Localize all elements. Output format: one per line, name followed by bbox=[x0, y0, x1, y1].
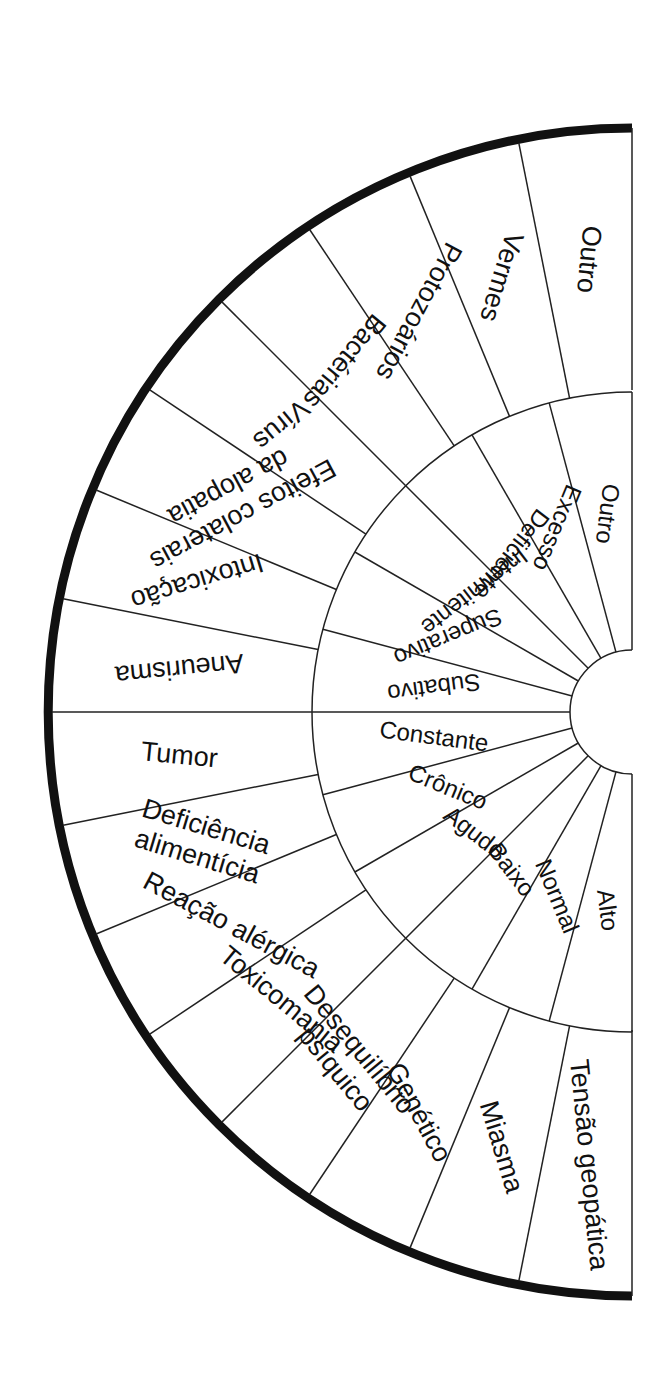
middle-segment-label: Crônico bbox=[405, 758, 492, 815]
outer-segment-label: Protozoários bbox=[370, 238, 468, 386]
middle-segment-label: Alto bbox=[592, 888, 624, 933]
outer-segment-label: Tumor bbox=[140, 736, 220, 773]
svg-text:Intoxicação: Intoxicação bbox=[127, 548, 266, 616]
outer-ring-labels: OutroVermesProtozoáriosBactériasVírusEfe… bbox=[113, 224, 615, 1272]
inner-hub bbox=[570, 650, 632, 774]
svg-text:Subativo: Subativo bbox=[386, 669, 482, 708]
svg-text:Vermes: Vermes bbox=[474, 229, 529, 325]
outer-segment-label: Efeitos colateraisda alopatia bbox=[131, 426, 341, 577]
svg-text:Outro: Outro bbox=[591, 482, 626, 545]
svg-text:Outro: Outro bbox=[571, 224, 607, 294]
middle-segment-label: Outro bbox=[591, 482, 626, 545]
outer-divider bbox=[63, 599, 318, 650]
middle-segment-label: Constante bbox=[378, 715, 490, 756]
svg-text:Tumor: Tumor bbox=[140, 736, 220, 773]
middle-segment-label: Normal bbox=[530, 855, 585, 937]
svg-text:Alto: Alto bbox=[592, 888, 624, 933]
outer-segment-label: Miasma bbox=[474, 1097, 530, 1197]
svg-text:Protozoários: Protozoários bbox=[370, 238, 468, 386]
radial-dial: OutroVermesProtozoáriosBactériasVírusEfe… bbox=[0, 0, 670, 1384]
outer-segment-label: Intoxicação bbox=[127, 548, 266, 616]
outer-divider bbox=[519, 143, 570, 398]
outer-segment-label: Tensão geopática bbox=[564, 1058, 615, 1273]
outer-divider bbox=[519, 1026, 570, 1281]
svg-text:Tensão geopática: Tensão geopática bbox=[564, 1058, 615, 1273]
svg-text:Efeitos colateraisda alopatia: Efeitos colateraisda alopatia bbox=[131, 426, 341, 577]
svg-text:Crônico: Crônico bbox=[405, 758, 492, 815]
svg-text:Normal: Normal bbox=[530, 855, 585, 937]
outer-segment-label: Outro bbox=[571, 224, 607, 294]
outer-segment-label: Vermes bbox=[474, 229, 529, 325]
svg-text:Miasma: Miasma bbox=[474, 1097, 530, 1197]
svg-text:Constante: Constante bbox=[378, 715, 490, 756]
svg-text:Aneurisma: Aneurisma bbox=[113, 648, 245, 691]
middle-segment-label: Subativo bbox=[386, 669, 482, 708]
outer-segment-label: Aneurisma bbox=[113, 648, 245, 691]
